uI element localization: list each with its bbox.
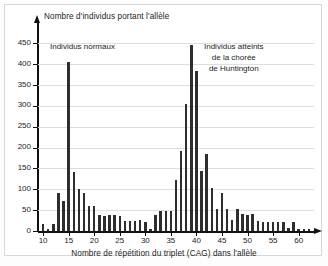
bar xyxy=(159,211,161,231)
bar xyxy=(170,211,172,231)
bar xyxy=(236,209,238,231)
bar xyxy=(180,151,182,231)
bar xyxy=(211,188,213,231)
bar xyxy=(98,215,100,231)
x-tick-label: 25 xyxy=(110,236,130,245)
annotation-huntington-group: Individus atteintsde la choréede Hunting… xyxy=(204,41,264,74)
x-tick-label: 10 xyxy=(33,236,53,245)
bar xyxy=(139,220,141,231)
bar xyxy=(241,214,243,231)
annotation-line: Individus atteints xyxy=(204,41,264,52)
bar xyxy=(57,193,59,231)
bar xyxy=(287,228,289,231)
x-tick-label: 60 xyxy=(289,236,309,245)
bar xyxy=(129,221,131,231)
bar xyxy=(272,222,274,231)
bar xyxy=(113,215,115,231)
bar xyxy=(108,215,110,231)
bar xyxy=(62,201,64,231)
grid-line xyxy=(38,106,314,107)
grid-line xyxy=(38,127,314,128)
x-tick-label: 45 xyxy=(212,236,232,245)
bar xyxy=(216,209,218,231)
bar xyxy=(303,229,305,231)
grid-line xyxy=(38,85,314,86)
bar xyxy=(231,220,233,231)
bar xyxy=(83,193,85,231)
bar xyxy=(149,229,151,231)
bar xyxy=(175,180,177,231)
bar xyxy=(200,171,202,231)
bar xyxy=(221,193,223,231)
figure: Nombre d'individus portant l'allèle Nomb… xyxy=(0,0,328,266)
bar xyxy=(73,172,75,231)
bar xyxy=(52,224,54,232)
x-tick-label: 40 xyxy=(186,236,206,245)
y-tick-label: 400 xyxy=(3,59,31,68)
y-axis-title: Nombre d'individus portant l'allèle xyxy=(44,12,169,21)
x-tick-label: 55 xyxy=(263,236,283,245)
y-tick-label: 350 xyxy=(3,80,31,89)
annotation-normal-group: Individus normaux xyxy=(50,41,115,52)
bar xyxy=(47,229,49,232)
bar xyxy=(165,211,167,231)
y-tick-label: 250 xyxy=(3,121,31,130)
x-tick-label: 35 xyxy=(161,236,181,245)
bar xyxy=(292,222,294,231)
bar xyxy=(103,216,105,231)
annotation-line: Individus normaux xyxy=(50,41,115,52)
bar xyxy=(144,222,146,231)
grid-line xyxy=(38,148,314,149)
bar xyxy=(257,221,259,231)
annotation-line: de Huntington xyxy=(204,63,264,74)
bar xyxy=(297,229,299,231)
y-tick-label: 0 xyxy=(3,226,31,235)
y-axis-labels: 050100150200250300350400450 xyxy=(0,0,31,266)
bar xyxy=(190,45,192,231)
bar xyxy=(251,214,253,231)
y-tick-label: 50 xyxy=(3,205,31,214)
bar xyxy=(277,222,279,231)
bar xyxy=(185,104,187,231)
x-axis-title: Nombre de répétition du triplet (CAG) da… xyxy=(0,249,328,258)
bar xyxy=(134,221,136,231)
y-tick-mark xyxy=(33,231,38,232)
bar xyxy=(226,209,228,231)
bar xyxy=(88,206,90,231)
plot-area xyxy=(38,35,314,231)
y-tick-label: 450 xyxy=(3,38,31,47)
bar xyxy=(42,224,44,232)
bar xyxy=(205,154,207,231)
bar xyxy=(308,229,310,231)
grid-line xyxy=(38,168,314,169)
bar xyxy=(282,222,284,231)
grid-line xyxy=(38,64,314,65)
bar xyxy=(195,71,197,231)
bar xyxy=(267,222,269,231)
x-axis-arrow-icon xyxy=(314,228,322,234)
bar xyxy=(262,222,264,231)
bar xyxy=(78,189,80,231)
bar xyxy=(93,206,95,231)
bar xyxy=(67,62,69,231)
x-tick-label: 20 xyxy=(84,236,104,245)
bar xyxy=(119,216,121,231)
x-tick-label: 15 xyxy=(59,236,79,245)
x-axis-line xyxy=(38,231,316,233)
y-tick-label: 150 xyxy=(3,163,31,172)
annotation-line: de la chorée xyxy=(204,52,264,63)
x-tick-label: 50 xyxy=(238,236,258,245)
x-tick-label: 30 xyxy=(135,236,155,245)
y-axis-arrow-icon xyxy=(34,15,40,23)
bar xyxy=(246,215,248,231)
y-tick-label: 100 xyxy=(3,184,31,193)
y-tick-label: 200 xyxy=(3,142,31,151)
bar xyxy=(154,215,156,231)
bar xyxy=(124,221,126,231)
y-tick-label: 300 xyxy=(3,100,31,109)
